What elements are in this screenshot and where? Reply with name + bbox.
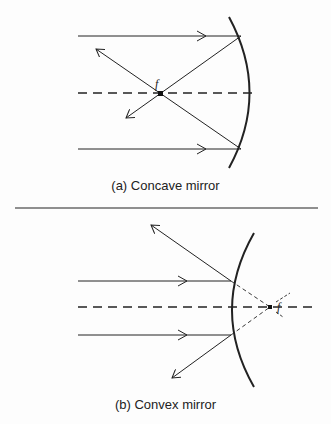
reflected-ray-top-b (151, 225, 231, 281)
panel-convex: f (78, 225, 315, 387)
convex-mirror-arc (232, 233, 254, 387)
reflected-ray-bottom-b (172, 335, 231, 378)
focal-point-a (158, 91, 163, 96)
reflected-ray-bottom-a (96, 49, 241, 149)
focal-point-b (268, 305, 272, 309)
virtual-ray-bottom-b (231, 307, 270, 335)
panel-concave: f (78, 17, 257, 168)
mirror-diagram: f f (0, 0, 331, 424)
virtual-ray-top-b (231, 281, 270, 307)
caption-concave: (a) Concave mirror (0, 178, 331, 193)
caption-convex: (b) Convex mirror (0, 397, 331, 412)
reflected-ray-top-a (126, 36, 241, 118)
focal-label-a: f (155, 77, 160, 91)
